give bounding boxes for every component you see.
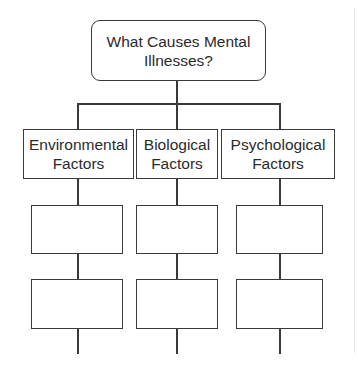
blank-box-environmental-2[interactable] — [31, 279, 123, 329]
root-label-line2: Illnesses? — [144, 51, 213, 70]
connector — [176, 179, 178, 205]
category-psychological: Psychological Factors — [221, 129, 335, 179]
blank-box-psychological-1[interactable] — [236, 205, 323, 254]
connector — [77, 179, 79, 205]
scan-edge-line — [354, 8, 355, 353]
blank-box-biological-2[interactable] — [136, 279, 218, 329]
connector — [279, 179, 281, 205]
connector — [279, 254, 281, 279]
category-label-line2: Factors — [252, 154, 304, 173]
tail-line — [279, 329, 281, 354]
category-label-line1: Environmental — [29, 135, 128, 154]
blank-box-biological-1[interactable] — [136, 205, 218, 254]
category-biological: Biological Factors — [136, 129, 218, 179]
blank-box-environmental-1[interactable] — [31, 205, 123, 254]
branch-right — [279, 103, 281, 129]
category-label-line1: Biological — [144, 135, 210, 154]
category-environmental: Environmental Factors — [23, 129, 134, 179]
tail-line — [176, 329, 178, 354]
root-node: What Causes Mental Illnesses? — [91, 20, 266, 81]
branch-left — [77, 103, 79, 129]
root-label-line1: What Causes Mental — [107, 32, 251, 51]
category-label-line1: Psychological — [231, 135, 326, 154]
category-label-line2: Factors — [53, 154, 105, 173]
connector — [176, 254, 178, 279]
connector — [77, 254, 79, 279]
branch-bar — [77, 103, 280, 105]
tail-line — [77, 329, 79, 354]
category-label-line2: Factors — [151, 154, 203, 173]
root-stem — [176, 80, 178, 129]
blank-box-psychological-2[interactable] — [236, 279, 323, 329]
